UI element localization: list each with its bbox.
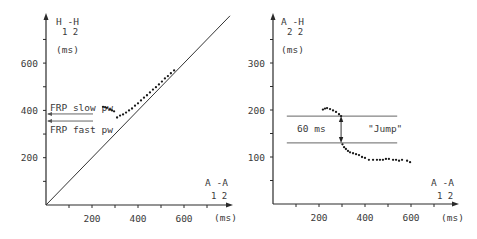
data-point [379,159,381,161]
right-x-axis-label-subscript: 1 2 [437,191,453,201]
left-x-axis-unit: (ms) [214,212,237,223]
jump-difference-label: 60 ms [297,123,326,134]
data-point [385,158,387,160]
left-x-axis-label: A -A [205,177,228,188]
data-point [152,88,154,90]
data-point [329,108,331,110]
y-tick-label: 100 [248,152,265,163]
data-point [349,151,351,153]
data-point [119,114,121,116]
data-point [335,111,337,113]
left-y-axis-arrow-icon [44,13,49,20]
data-point [113,110,115,112]
data-point [382,159,384,161]
data-point [343,146,345,148]
data-point [140,99,142,101]
left-chart-ticks: 200400600200400600 [21,39,207,224]
left-x-axis-arrow-icon [226,203,233,208]
right-y-axis-label-subscript: 2 2 [287,27,303,37]
data-point [352,152,354,154]
x-tick-label: 400 [356,212,373,223]
data-point [406,160,408,162]
data-point [392,159,394,161]
figure: 200400600200400600 H -H 1 2 (ms) A -A 1 … [0,0,477,239]
data-point [167,75,169,77]
data-point [122,113,124,115]
data-point [372,159,374,161]
y-tick-label: 400 [21,105,38,116]
jump-label: "Jump" [368,123,402,134]
right-y-axis-label: A -H [281,16,304,27]
data-point [161,80,163,82]
x-tick-label: 200 [310,212,327,223]
data-point [111,109,113,111]
x-tick-label: 600 [402,212,419,223]
data-point [398,160,400,162]
frp-fast-label: FRP fast pw [50,124,113,135]
x-tick-label: 400 [129,213,146,224]
y-tick-label: 300 [248,58,265,69]
data-point [149,91,151,93]
right-x-axis-arrow-icon [452,202,459,207]
data-point [409,161,411,163]
data-point [173,69,175,71]
frp-fast-annotation: FRP fast pw [47,119,113,135]
data-point [326,107,328,109]
data-point [368,159,370,161]
left-y-axis-label-subscript: 1 2 [62,27,78,37]
data-point [164,77,166,79]
left-y-axis-label: H -H [56,16,79,27]
data-point [125,111,127,113]
data-point [395,159,397,161]
data-point [361,156,363,158]
frp-fast-arrowhead-icon [47,119,52,123]
chart-a2h2-vs-a1a2: 200400600100200300 A -H 2 2 (ms) A -A 1 … [248,13,464,223]
y-tick-label: 200 [21,152,38,163]
frp-slow-annotation: FRP slow pw [47,102,113,116]
data-point [137,102,139,104]
right-x-axis-label: A -A [431,177,454,188]
data-point [322,108,324,110]
data-point [134,105,136,107]
jump-arrowhead-down-icon [339,137,343,143]
data-point [109,108,111,110]
data-point [401,159,403,161]
data-point [358,154,360,156]
data-point [376,159,378,161]
chart-h1h2-vs-a1a2: 200400600200400600 H -H 1 2 (ms) A -A 1 … [21,13,237,224]
data-point [341,143,343,145]
y-tick-label: 600 [21,58,38,69]
data-point [345,148,347,150]
right-data-points [322,107,411,163]
right-y-axis-unit: (ms) [281,44,304,55]
x-tick-label: 600 [175,213,192,224]
data-point [347,150,349,152]
data-point [106,107,108,109]
right-y-axis-arrow-icon [271,13,276,20]
data-point [332,109,334,111]
data-point [155,86,157,88]
data-point [102,106,104,108]
y-tick-label: 200 [248,105,265,116]
data-point [131,107,133,109]
data-point [128,109,130,111]
data-point [158,83,160,85]
data-point [338,113,340,115]
data-point [170,72,172,74]
data-point [340,115,342,117]
left-y-axis-unit: (ms) [56,44,79,55]
data-point [388,158,390,160]
data-point [116,116,118,118]
left-x-axis-label-subscript: 1 2 [211,191,227,201]
right-x-axis-unit: (ms) [441,212,464,223]
data-point [324,107,326,109]
data-point [146,94,148,96]
jump-annotation: 60 ms "Jump" [287,116,403,143]
data-point [143,96,145,98]
data-point [355,153,357,155]
data-point [364,157,366,159]
x-tick-label: 200 [83,213,100,224]
